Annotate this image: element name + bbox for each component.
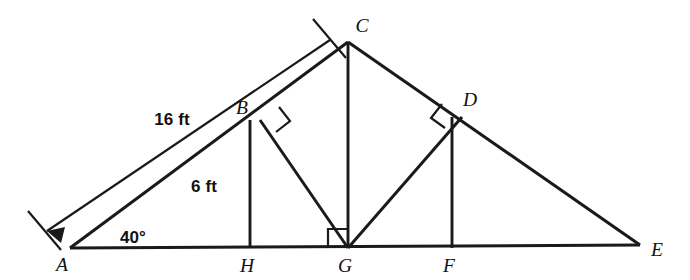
- vertex-label-G: G: [338, 255, 352, 276]
- geometry-figure: A B C D E F G H 16 ft 6 ft 40°: [0, 0, 690, 280]
- vertex-label-C: C: [355, 15, 369, 36]
- segment-slope-C-E: [348, 42, 640, 245]
- vertex-label-H: H: [239, 255, 255, 276]
- vertex-label-D: D: [462, 89, 477, 110]
- vertex-label-A: A: [54, 254, 68, 275]
- segment-base-A-E: [70, 245, 640, 248]
- vertex-label-B: B: [236, 97, 248, 118]
- measurement-label-6ft: 6 ft: [191, 177, 217, 196]
- triangle-outline: [70, 42, 640, 248]
- segment-strut-D-G: [348, 117, 462, 248]
- angle-label-40deg: 40°: [120, 228, 146, 247]
- inner-struts: [260, 117, 462, 248]
- dimension-shaft-16ft: [47, 40, 330, 231]
- vertex-label-F: F: [442, 255, 456, 276]
- vertex-label-E: E: [650, 239, 663, 260]
- dimension-line-16ft: [28, 19, 346, 250]
- segment-slope-A-C: [70, 42, 348, 248]
- diagram-canvas: A B C D E F G H 16 ft 6 ft 40°: [0, 0, 690, 280]
- measurement-label-16ft: 16 ft: [154, 110, 190, 129]
- dimension-tick-end-16ft: [313, 19, 346, 58]
- right-angle-mark-B: [276, 107, 290, 132]
